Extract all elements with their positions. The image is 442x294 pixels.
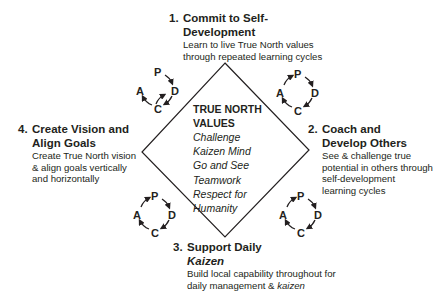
pdca-a: A [276, 88, 284, 99]
center-title-line1: TRUE NORTH [193, 102, 262, 116]
pdca-c: C [294, 106, 302, 117]
pdca-d: D [314, 210, 322, 221]
step-1-number: 1. [169, 11, 179, 25]
true-north-values: TRUE NORTH VALUES Challenge Kaizen Mind … [193, 102, 262, 215]
step-3-support-daily-kaizen: 3. Support Daily Kaizen Build local capa… [173, 240, 442, 291]
step-3-title-line2: Kaizen [173, 254, 442, 268]
step-2-coach-and-develop-others: 2. Coach and Develop Others See & challe… [308, 122, 442, 196]
pdca-a: A [133, 210, 141, 221]
step-1-title-line1: Commit to Self- [169, 11, 439, 25]
pdca-c: C [154, 104, 162, 115]
pdca-p: P [294, 69, 301, 80]
step-4-title-line2: Align Goals [18, 136, 148, 150]
value-respect-for: Respect for [193, 187, 262, 201]
step-2-number: 2. [308, 122, 318, 136]
pdca-c: C [297, 228, 305, 239]
pdca-p: P [297, 191, 304, 202]
step-3-desc-line2: daily management & kaizen [173, 280, 442, 292]
pdca-cycle-icon-top-left: P D C A [134, 66, 184, 116]
step-2-desc-line1: See & challenge true [308, 150, 442, 162]
pdca-a: A [279, 210, 287, 221]
value-humanity: Humanity [193, 201, 262, 215]
pdca-d: D [311, 88, 319, 99]
value-challenge: Challenge [193, 130, 262, 144]
step-3-desc-line2-text: daily management & [187, 280, 277, 291]
pdca-cycle-icon-bottom-right: P D C A [277, 190, 327, 240]
pdca-a: A [136, 86, 144, 97]
step-2-desc-line3: self-development [308, 173, 442, 185]
step-4-number: 4. [18, 122, 28, 136]
value-teamwork: Teamwork [193, 173, 262, 187]
step-2-desc-line2: potential in others through [308, 162, 442, 174]
step-4-title-line1: Create Vision and [18, 122, 148, 136]
pdca-cycle-icon-top-right: P D C A [274, 68, 324, 118]
value-kaizen-mind: Kaizen Mind [193, 144, 262, 158]
step-1-title-line2: Development [169, 25, 439, 39]
pdca-p: P [151, 191, 158, 202]
pdca-d: D [168, 210, 176, 221]
step-3-desc-italic-tail: kaizen [277, 280, 305, 291]
pdca-p: P [154, 67, 161, 78]
step-2-desc-line4: learning cycles [308, 185, 442, 197]
step-3-desc-line1: Build local capability throughout for [173, 268, 442, 280]
step-1-desc-line2: through repeated learning cycles [169, 51, 439, 63]
step-2-title-line2: Develop Others [308, 136, 442, 150]
value-go-and-see: Go and See [193, 158, 262, 172]
step-3-title-line1: Support Daily [173, 240, 442, 254]
step-2-title-line1: Coach and [308, 122, 442, 136]
pdca-cycle-icon-bottom-left: P D C A [131, 190, 181, 240]
step-4-desc-line1: Create True North vision [18, 150, 148, 162]
center-title-line2: VALUES [193, 116, 262, 130]
step-1-commit-to-self-development: 1. Commit to Self- Development Learn to … [169, 11, 439, 62]
step-4-create-vision-and-align-goals: 4. Create Vision and Align Goals Create … [18, 122, 148, 185]
pdca-d: D [171, 86, 179, 97]
step-4-desc-line2: & align goals vertically [18, 162, 148, 174]
step-3-number: 3. [173, 240, 183, 254]
step-1-desc-line1: Learn to live True North values [169, 39, 439, 51]
step-4-desc-line3: and horizontally [18, 173, 148, 185]
pdca-c: C [151, 228, 159, 239]
